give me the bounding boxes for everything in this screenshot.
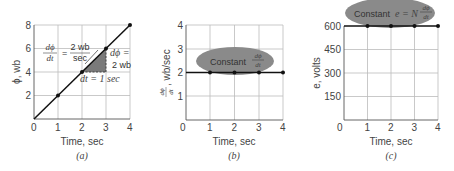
svg-text:1: 1 xyxy=(207,122,213,133)
x-axis-label-c: Time, sec xyxy=(370,136,413,147)
grid-c xyxy=(344,26,438,120)
svg-text:300: 300 xyxy=(324,68,341,79)
bubble-text-b: Constant xyxy=(210,57,247,67)
svg-text:4: 4 xyxy=(25,67,31,78)
svg-text:450: 450 xyxy=(324,44,341,55)
svg-text:6: 6 xyxy=(25,43,31,54)
chart-c: Constant e = N dϕ dt 0 1 2 3 4 150 300 4… xyxy=(311,0,441,162)
svg-text:e = N: e = N xyxy=(395,8,419,19)
svg-text:dϕ: dϕ xyxy=(254,52,262,60)
svg-text:3: 3 xyxy=(177,44,183,55)
svg-text:8: 8 xyxy=(25,20,31,31)
svg-text:dϕ: dϕ xyxy=(422,4,430,12)
svg-text:4: 4 xyxy=(435,122,441,133)
svg-text:dt: dt xyxy=(46,53,54,63)
svg-text:, wb/sec: , wb/sec xyxy=(161,49,172,86)
svg-text:4: 4 xyxy=(177,20,183,31)
x-axis-label-b: Time, sec xyxy=(213,136,256,147)
x-ticks-a: 0 1 2 3 4 xyxy=(31,122,133,133)
slope-fraction: dϕ dt = 2 wb sec xyxy=(43,42,90,63)
x-axis-label-a: Time, sec xyxy=(61,136,104,147)
svg-text:3: 3 xyxy=(256,122,262,133)
svg-text:4: 4 xyxy=(127,122,133,133)
svg-text:sec: sec xyxy=(73,53,88,63)
svg-text:1: 1 xyxy=(177,91,183,102)
svg-text:0: 0 xyxy=(180,122,186,133)
y-axis-label-a: ϕ, wb xyxy=(11,60,22,84)
bubble-text-c: Constant xyxy=(354,9,391,19)
dt-label: dt = 1 sec xyxy=(80,73,120,84)
caption-b: (b) xyxy=(228,150,240,162)
svg-text:150: 150 xyxy=(324,91,341,102)
svg-text:2: 2 xyxy=(79,122,85,133)
chart-a: 0 1 2 3 4 2 4 6 8 dϕ dt = 2 wb sec dϕ = … xyxy=(11,20,133,162)
svg-text:1: 1 xyxy=(365,122,371,133)
svg-text:4: 4 xyxy=(280,122,286,133)
y-ticks-a: 2 4 6 8 xyxy=(25,20,31,101)
svg-text:=: = xyxy=(62,48,67,58)
x-ticks-b: 0 1 2 3 4 xyxy=(180,122,286,133)
svg-text:2: 2 xyxy=(232,122,238,133)
svg-text:2: 2 xyxy=(177,67,183,78)
chart-b: Constant dϕ dt 0 1 2 3 4 1 2 3 4 dϕ xyxy=(158,20,286,162)
svg-text:dϕ: dϕ xyxy=(158,88,166,96)
svg-text:dt: dt xyxy=(167,88,175,95)
svg-text:2: 2 xyxy=(25,90,31,101)
svg-text:600: 600 xyxy=(324,21,341,32)
svg-text:0: 0 xyxy=(31,122,37,133)
dphi-value: 2 wb xyxy=(112,60,131,70)
svg-text:2 wb: 2 wb xyxy=(70,42,89,52)
caption-c: (c) xyxy=(385,150,397,162)
svg-text:1: 1 xyxy=(55,122,61,133)
figure: 0 1 2 3 4 2 4 6 8 dϕ dt = 2 wb sec dϕ = … xyxy=(0,0,454,171)
svg-text:3: 3 xyxy=(103,122,109,133)
y-ticks-c: 150 300 450 600 xyxy=(324,21,341,102)
y-axis-label-c: e, volts xyxy=(311,57,322,89)
caption-a: (a) xyxy=(76,150,88,162)
svg-text:dϕ: dϕ xyxy=(45,42,55,52)
x-ticks-c: 0 1 2 3 4 xyxy=(337,122,441,133)
svg-text:0: 0 xyxy=(337,122,343,133)
svg-text:3: 3 xyxy=(412,122,418,133)
svg-text:2: 2 xyxy=(388,122,394,133)
dphi-label: dϕ = xyxy=(110,47,129,58)
y-ticks-b: 1 2 3 4 xyxy=(177,20,183,102)
y-axis-label-b: dϕ dt , wb/sec xyxy=(158,49,175,97)
